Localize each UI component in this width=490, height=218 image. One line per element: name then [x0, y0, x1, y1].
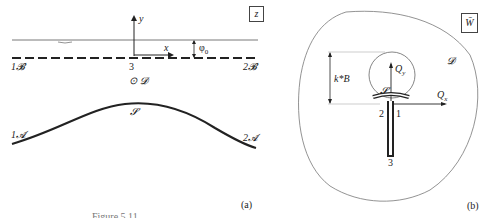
domain-label-b: 𝓓 [447, 56, 455, 66]
label-1B: 1𝓑 [11, 62, 25, 72]
kB-label: k*B [334, 74, 350, 84]
qy-label: Qy [395, 64, 405, 77]
figure-caption: Figure 5.11 [92, 211, 138, 218]
y-arrow-icon [131, 15, 137, 21]
figure-drawing [0, 0, 490, 218]
domain-label-a: ⊙ 𝓓 [129, 76, 148, 86]
qy-arrow-icon [389, 62, 393, 68]
label-3: 3 [129, 62, 134, 72]
plane-label-w: W̄ [461, 13, 478, 33]
panel-tag-a: (a) [241, 200, 252, 210]
qx-label: Qx [437, 90, 447, 103]
label-1A: 1𝓐 [11, 130, 26, 140]
x-axis-label: x [164, 43, 168, 53]
circle-contour [369, 52, 415, 98]
point-3: 3 [388, 158, 393, 168]
plane-label-z: z [249, 6, 264, 22]
label-2A: 2𝓐 [243, 133, 258, 143]
point-2: 2 [379, 109, 384, 119]
panel-tag-b: (b) [467, 201, 479, 211]
label-2B: 2𝓑 [243, 62, 257, 72]
curve-label-s: 𝓢 [130, 107, 138, 117]
y-axis-label: y [139, 14, 143, 24]
point-1: 1 [396, 109, 401, 119]
s-label-b: 𝓢 [380, 86, 388, 96]
phi0-label: φ0 [199, 43, 208, 56]
water-level-icon [58, 42, 72, 43]
